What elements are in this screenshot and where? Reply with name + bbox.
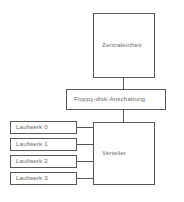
block-diagram: Zentraleinheit Floppy-disk-Anschaltung V… xyxy=(0,0,184,202)
node-verteiler: Verteiler xyxy=(93,122,155,185)
node-laufwerk-0: Laufwerk 0 xyxy=(10,121,77,134)
node-laufwerk-3: Laufwerk 3 xyxy=(10,172,77,185)
node-floppy-disk-anschaltung-label: Floppy-disk-Anschaltung xyxy=(67,96,145,102)
node-laufwerk-2: Laufwerk 2 xyxy=(10,155,77,168)
node-zentraleinheit-label: Zentraleinheit xyxy=(94,42,142,48)
node-laufwerk-1-label: Laufwerk 1 xyxy=(11,141,48,147)
connector-verteiler-to-drive-2 xyxy=(77,161,94,162)
node-laufwerk-3-label: Laufwerk 3 xyxy=(11,175,48,181)
node-zentraleinheit: Zentraleinheit xyxy=(93,13,155,78)
connector-verteiler-to-drive-1 xyxy=(77,144,94,145)
connector-verteiler-to-drive-3 xyxy=(77,178,94,179)
node-verteiler-label: Verteiler xyxy=(94,150,126,156)
connector-verteiler-to-drive-0 xyxy=(77,127,94,128)
node-laufwerk-0-label: Laufwerk 0 xyxy=(11,124,48,130)
node-floppy-disk-anschaltung: Floppy-disk-Anschaltung xyxy=(66,89,166,110)
node-laufwerk-1: Laufwerk 1 xyxy=(10,138,77,151)
node-laufwerk-2-label: Laufwerk 2 xyxy=(11,158,48,164)
